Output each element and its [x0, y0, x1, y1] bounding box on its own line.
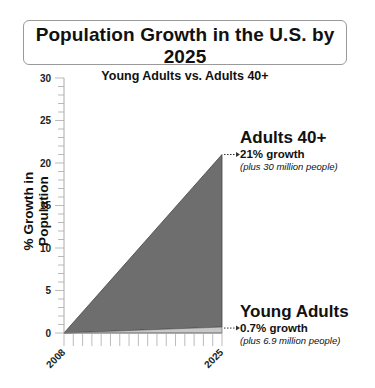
annotation-heading: Young Adults: [240, 302, 349, 321]
y-tick-label: 30: [40, 73, 52, 84]
annotation-adults-40: Adults 40+ 21% growth (plus 30 million p…: [240, 128, 338, 173]
area-adults-40: [64, 155, 222, 334]
annotation-note: (plus 6.9 million people): [240, 335, 349, 347]
annotation-growth: 21% growth: [240, 147, 338, 161]
x-tick-label: 2025: [202, 346, 226, 370]
annotation-note: (plus 30 million people): [240, 161, 338, 173]
y-tick-label: 0: [45, 328, 51, 339]
x-tick-label: 2008: [44, 346, 68, 370]
y-tick-label: 5: [45, 285, 51, 296]
annotation-growth: 0.7% growth: [240, 321, 349, 335]
annotation-heading: Adults 40+: [240, 128, 338, 147]
annotation-young-adults: Young Adults 0.7% growth (plus 6.9 milli…: [240, 302, 349, 347]
y-axis-label: % Growth in Population: [21, 141, 51, 281]
y-tick-label: 25: [40, 115, 52, 126]
